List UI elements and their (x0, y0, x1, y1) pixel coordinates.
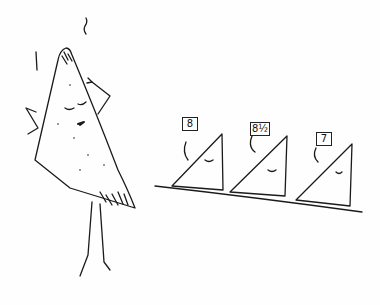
judge-chip-2 (230, 134, 287, 196)
judges-table (155, 186, 362, 212)
drawing (0, 0, 380, 305)
score-sign-1: 8 (182, 117, 198, 131)
judge-chip-3 (296, 144, 352, 206)
score-sign-3: 7 (316, 132, 332, 146)
cartoon-illustration: 8 8½ 7 (0, 0, 380, 305)
motion-lines (36, 18, 87, 70)
posing-chip (26, 48, 135, 276)
judge-chip-1 (172, 134, 223, 190)
score-sign-2: 8½ (250, 122, 270, 136)
